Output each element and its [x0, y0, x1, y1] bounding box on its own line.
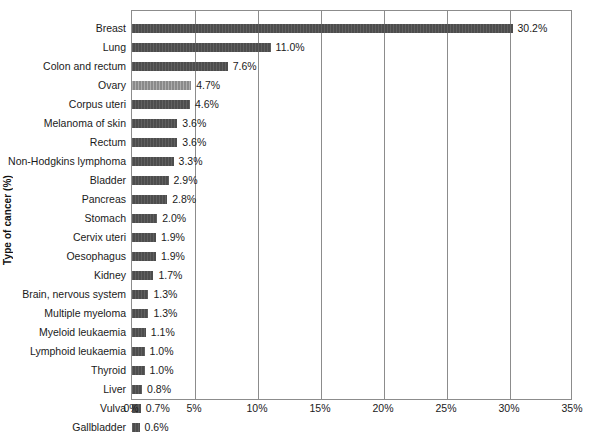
- bar-value-label: 0.8%: [147, 380, 171, 399]
- bar: [132, 290, 148, 299]
- bar-container: [132, 361, 145, 380]
- bar-row: Colon and rectum7.6%: [0, 57, 607, 76]
- bar-row: Lung11.0%: [0, 38, 607, 57]
- bar-container: [132, 76, 191, 95]
- bar-row: Breast30.2%: [0, 19, 607, 38]
- x-tick-label: 10%: [227, 402, 287, 414]
- category-label: Cervix uteri: [0, 228, 126, 247]
- bar-row: Ovary4.7%: [0, 76, 607, 95]
- bar-value-label: 3.3%: [179, 152, 203, 171]
- bar-row: Stomach2.0%: [0, 209, 607, 228]
- category-label: Lung: [0, 38, 126, 57]
- x-tick-label: 20%: [353, 402, 413, 414]
- bar: [132, 100, 190, 109]
- bar-row: Oesophagus1.9%: [0, 247, 607, 266]
- bar-value-label: 1.7%: [158, 266, 182, 285]
- bar: [132, 119, 177, 128]
- bar: [132, 138, 177, 147]
- bar-value-label: 1.3%: [153, 304, 177, 323]
- bar-container: [132, 209, 157, 228]
- bar-container: [132, 266, 153, 285]
- bar-container: [132, 342, 145, 361]
- bar-container: [132, 380, 142, 399]
- bar: [132, 366, 145, 375]
- category-label: Multiple myeloma: [0, 304, 126, 323]
- bar-value-label: 30.2%: [518, 19, 548, 38]
- bar-container: [132, 152, 174, 171]
- bar-row: Brain, nervous system1.3%: [0, 285, 607, 304]
- category-label: Liver: [0, 380, 126, 399]
- category-label: Stomach: [0, 209, 126, 228]
- bar: [132, 214, 157, 223]
- bar-container: [132, 228, 156, 247]
- bar-value-label: 7.6%: [233, 57, 257, 76]
- bar-value-label: 3.6%: [182, 133, 206, 152]
- category-label: Breast: [0, 19, 126, 38]
- bar-container: [132, 95, 190, 114]
- bar: [132, 385, 142, 394]
- bar-container: [132, 57, 228, 76]
- x-tick-label: 30%: [479, 402, 539, 414]
- bar-row: Multiple myeloma1.3%: [0, 304, 607, 323]
- bar-container: [132, 171, 169, 190]
- category-label: Myeloid leukaemia: [0, 323, 126, 342]
- bar: [132, 43, 271, 52]
- bar-value-label: 4.6%: [195, 95, 219, 114]
- bar-value-label: 1.1%: [151, 323, 175, 342]
- bar-row: Pancreas2.8%: [0, 190, 607, 209]
- bar-container: [132, 285, 148, 304]
- bar-value-label: 2.9%: [174, 171, 198, 190]
- bar-value-label: 11.0%: [276, 38, 305, 57]
- bar-row: Myeloid leukaemia1.1%: [0, 323, 607, 342]
- bar-value-label: 1.3%: [153, 285, 177, 304]
- bar-container: [132, 114, 177, 133]
- bar-container: [132, 133, 177, 152]
- bar: [132, 81, 191, 90]
- bar-row: Rectum3.6%: [0, 133, 607, 152]
- bar-row: Melanoma of skin3.6%: [0, 114, 607, 133]
- bar-row: Thyroid1.0%: [0, 361, 607, 380]
- category-label: Oesophagus: [0, 247, 126, 266]
- category-label: Bladder: [0, 171, 126, 190]
- category-label: Lymphoid leukaemia: [0, 342, 126, 361]
- bar-value-label: 1.9%: [161, 228, 185, 247]
- bar-value-label: 1.0%: [150, 361, 174, 380]
- bar-row: Cervix uteri1.9%: [0, 228, 607, 247]
- bar-container: [132, 190, 167, 209]
- bar-container: [132, 323, 146, 342]
- x-tick-label: 35%: [542, 402, 602, 414]
- bar-value-label: 4.7%: [196, 76, 220, 95]
- bar: [132, 271, 153, 280]
- category-label: Colon and rectum: [0, 57, 126, 76]
- category-label: Brain, nervous system: [0, 285, 126, 304]
- category-label: Pancreas: [0, 190, 126, 209]
- bar-container: [132, 38, 271, 57]
- x-tick-label: 15%: [290, 402, 350, 414]
- category-label: Corpus uteri: [0, 95, 126, 114]
- cancer-incidence-bar-chart: Type of cancer (%) Breast30.2%Lung11.0%C…: [0, 0, 607, 433]
- bar: [132, 347, 145, 356]
- bar-row: Liver0.8%: [0, 380, 607, 399]
- bar: [132, 176, 169, 185]
- x-axis-ticks: 0%5%10%15%20%25%30%35%: [0, 402, 607, 422]
- x-tick-label: 0%: [101, 402, 161, 414]
- bar-row: Kidney1.7%: [0, 266, 607, 285]
- bar-row: Corpus uteri4.6%: [0, 95, 607, 114]
- bar: [132, 233, 156, 242]
- bar-value-label: 3.6%: [182, 114, 206, 133]
- bar-container: [132, 304, 148, 323]
- bar: [132, 195, 167, 204]
- bar: [132, 24, 513, 33]
- category-label: Kidney: [0, 266, 126, 285]
- bar: [132, 328, 146, 337]
- bar-container: [132, 19, 513, 38]
- bar-row: Bladder2.9%: [0, 171, 607, 190]
- category-label: Rectum: [0, 133, 126, 152]
- bar: [132, 157, 174, 166]
- bar-value-label: 2.0%: [162, 209, 186, 228]
- category-label: Non-Hodgkins lymphoma: [0, 152, 126, 171]
- bar-rows: Breast30.2%Lung11.0%Colon and rectum7.6%…: [0, 10, 607, 400]
- bar-value-label: 1.0%: [150, 342, 174, 361]
- x-tick-label: 5%: [164, 402, 224, 414]
- bar: [132, 423, 140, 432]
